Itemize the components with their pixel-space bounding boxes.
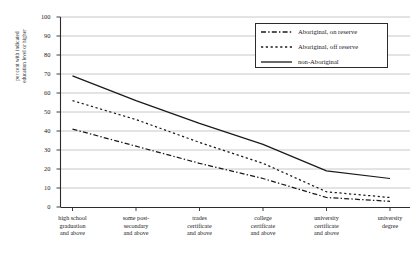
x-axis-tick-label: universitydegree xyxy=(358,215,419,230)
series-lines xyxy=(73,76,391,201)
x-axis-tick-label-line: certificate xyxy=(295,223,359,231)
x-axis-tick-label-line: and above xyxy=(168,230,232,238)
x-axis-tick-label-line: graduation xyxy=(41,223,105,231)
education-attainment-line-chart: per cent with indicated education level … xyxy=(0,0,419,253)
x-axis-tick-label-line: high school xyxy=(41,215,105,223)
y-axis-tick-label: 30 xyxy=(33,147,51,153)
x-axis-tick-label-line: certificate xyxy=(168,223,232,231)
legend-swatch-dotted-icon xyxy=(261,42,292,52)
x-axis-tick-label: collegecertificateand above xyxy=(231,215,295,238)
x-axis-tick-label-line: and above xyxy=(295,230,359,238)
x-axis-tick-label-line: and above xyxy=(41,230,105,238)
x-axis-tick-label-line: trades xyxy=(168,215,232,223)
y-axis-tick-label: 80 xyxy=(33,52,51,58)
legend-entry-aboriginal-off-reserve: Aboriginal, off reserve xyxy=(261,39,358,54)
x-axis-tick-label-line: secondary xyxy=(104,223,168,231)
series-line-non-aboriginal xyxy=(73,76,391,179)
x-axis-tick-label-line: some post- xyxy=(104,215,168,223)
legend-swatch-solid-icon xyxy=(261,57,292,67)
y-axis-tick-label: 0 xyxy=(33,204,51,210)
y-axis-tick-label: 50 xyxy=(33,109,51,115)
x-axis-tick-label-line: certificate xyxy=(231,223,295,231)
x-axis-tick-label-line: college xyxy=(231,215,295,223)
chart-legend: Aboriginal, on reserve Aboriginal, off r… xyxy=(255,23,388,68)
x-axis-tick-label: tradescertificateand above xyxy=(168,215,232,238)
legend-label-1: Aboriginal, off reserve xyxy=(298,43,358,50)
series-line-aboriginal-off-reserve xyxy=(73,101,391,198)
legend-label-2: non-Aboriginal xyxy=(298,58,339,65)
x-axis-tick-label: some post-secondaryand above xyxy=(104,215,168,238)
x-axis-tick-label-line: university xyxy=(358,215,419,223)
x-axis-tick-label: high schoolgraduationand above xyxy=(41,215,105,238)
y-axis-tick-label: 70 xyxy=(33,71,51,77)
legend-label-0: Aboriginal, on reserve xyxy=(298,28,357,35)
y-axis-tick-label: 10 xyxy=(33,185,51,191)
x-axis-tick-label-line: degree xyxy=(358,223,419,231)
x-axis-tick-label-line: and above xyxy=(104,230,168,238)
y-axis-tick-label: 100 xyxy=(33,14,51,20)
x-axis-tick-label-line: university xyxy=(295,215,359,223)
y-axis-tick-label: 90 xyxy=(33,33,51,39)
y-axis-tick-label: 20 xyxy=(33,166,51,172)
legend-entry-aboriginal-on-reserve: Aboriginal, on reserve xyxy=(261,24,357,39)
legend-entry-non-aboriginal: non-Aboriginal xyxy=(261,54,339,69)
legend-swatch-dash-dot-icon xyxy=(261,27,292,37)
x-axis-tick-label: universitycertificateand above xyxy=(295,215,359,238)
y-axis-tick-label: 40 xyxy=(33,128,51,134)
y-axis-ticks xyxy=(57,17,61,207)
y-axis-tick-label: 60 xyxy=(33,90,51,96)
series-line-aboriginal-on-reserve xyxy=(73,129,391,201)
x-axis-tick-label-line: and above xyxy=(231,230,295,238)
